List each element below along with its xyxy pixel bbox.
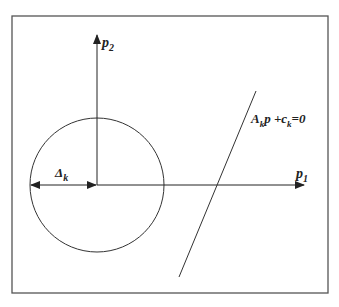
constraint-label: Akp +ck=0 [250,111,306,129]
p2-label: p2 [101,35,114,53]
p1-label: p1 [295,166,308,184]
constraint-line [179,91,256,277]
diagram-canvas: p2 p1 Δk Akp +ck=0 [0,0,339,307]
frame [12,16,328,293]
delta-k-label: Δk [54,165,68,183]
